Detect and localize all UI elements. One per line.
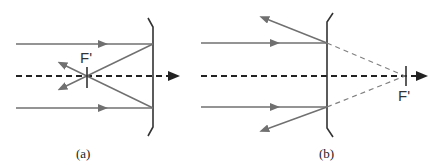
panel-b [201, 13, 418, 137]
outgoing-ray-top-b [264, 18, 327, 43]
caption-b: (b) [319, 146, 334, 162]
outgoing-ray-top-a [62, 44, 153, 88]
virtual-extension-bottom-b [327, 76, 405, 107]
optics-diagram [0, 0, 442, 165]
caption-a: (a) [76, 146, 90, 162]
virtual-extension-top-b [327, 43, 405, 76]
outgoing-ray-bottom-a [62, 64, 153, 108]
focal-label-a: F' [80, 49, 92, 66]
panel-a [16, 18, 170, 136]
outgoing-ray-bottom-b [264, 107, 327, 130]
focal-label-b: F' [398, 87, 410, 104]
